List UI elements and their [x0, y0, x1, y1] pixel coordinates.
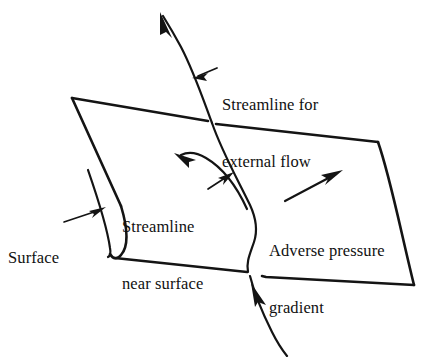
leader-streamline-external-line — [198, 68, 217, 76]
flow-separation-diagram: .stroke { fill: none; stroke: #141414; s… — [0, 0, 433, 357]
label-adverse-pressure-gradient: Adverse pressure gradient — [269, 203, 385, 355]
arrow-up-left-icon-near-surface — [174, 153, 196, 168]
surface-top-edge-left — [72, 98, 208, 121]
label-adverse-pressure-gradient-line1: Adverse pressure — [269, 241, 385, 260]
arrow-up-right-icon-adverse-pressure — [321, 170, 343, 185]
arrow-up-left-icon-external-top — [160, 12, 172, 38]
label-surface: Surface — [8, 210, 59, 305]
label-streamline-external-flow: Streamline for external flow — [222, 57, 318, 209]
label-streamline-external-line2: external flow — [222, 152, 318, 171]
leader-surface — [64, 207, 106, 222]
label-streamline-near-surface-line2: near surface — [122, 274, 203, 293]
surface-leading-edge-upper — [72, 98, 121, 206]
label-surface-line1: Surface — [8, 248, 59, 267]
streamline-external-upper — [163, 16, 212, 123]
label-streamline-external-line1: Streamline for — [222, 95, 318, 114]
label-streamline-near-surface-line1: Streamline — [122, 217, 203, 236]
label-streamline-near-surface: Streamline near surface — [122, 179, 203, 331]
label-adverse-pressure-gradient-line2: gradient — [269, 298, 385, 317]
